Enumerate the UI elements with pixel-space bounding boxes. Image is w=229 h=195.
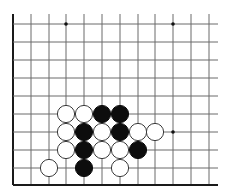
white-stone (93, 123, 110, 140)
go-board[interactable] (0, 0, 229, 195)
black-stone (129, 141, 146, 158)
white-stone (57, 141, 74, 158)
white-stone (75, 105, 92, 122)
black-stone (111, 105, 128, 122)
black-stone (75, 159, 92, 176)
black-stone (111, 123, 128, 140)
star-point-icon (64, 22, 68, 26)
white-stone (57, 105, 74, 122)
white-stone (111, 141, 128, 158)
board-grid (13, 14, 218, 185)
black-stone (93, 105, 110, 122)
white-stone (57, 123, 74, 140)
white-stone (93, 141, 110, 158)
white-stone (129, 123, 146, 140)
white-stone (40, 159, 57, 176)
white-stone (146, 123, 163, 140)
star-point-icon (171, 22, 175, 26)
black-stone (75, 123, 92, 140)
star-point-icon (171, 130, 175, 134)
white-stone (111, 159, 128, 176)
black-stone (75, 141, 92, 158)
